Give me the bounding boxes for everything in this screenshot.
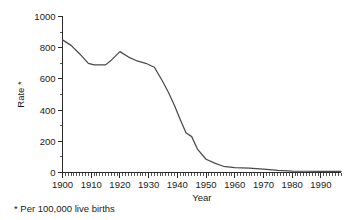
x-axis-tick-labels: 1900191019201930194019501960197019801990 [52,179,332,190]
x-tick-label-1950: 1950 [195,179,216,190]
y-axis-title: Rate * [15,81,26,108]
x-tick-label-1900: 1900 [52,179,73,190]
x-axis-title: Year [192,192,211,203]
y-tick-label-0: 0 [50,167,55,178]
x-tick-label-1930: 1930 [138,179,159,190]
y-tick-label-400: 400 [40,105,56,116]
y-axis-tick-labels: 02004006008001000 [34,11,55,178]
y-tick-label-200: 200 [40,136,56,147]
footnote: * Per 100,000 live births [14,203,115,214]
x-tick-label-1970: 1970 [253,179,274,190]
x-tick-label-1910: 1910 [81,179,102,190]
x-tick-label-1980: 1980 [282,179,303,190]
y-tick-label-800: 800 [40,42,56,53]
x-tick-label-1960: 1960 [224,179,245,190]
x-tick-label-1920: 1920 [109,179,130,190]
y-tick-label-1000: 1000 [34,11,55,22]
data-series-line [63,40,342,172]
x-tick-label-1990: 1990 [310,179,331,190]
maternal-mortality-line-chart: 02004006008001000 1900191019201930194019… [0,0,348,220]
chart-canvas: 02004006008001000 1900191019201930194019… [0,0,348,220]
x-tick-label-1940: 1940 [167,179,188,190]
footnote-text: * Per 100,000 live births [14,203,115,214]
y-tick-label-600: 600 [40,73,56,84]
